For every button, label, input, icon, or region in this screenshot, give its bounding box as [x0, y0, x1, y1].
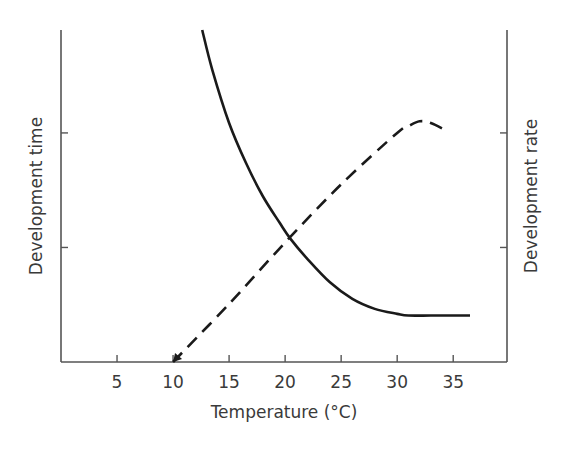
development-rate-curve	[173, 121, 448, 362]
development-time-curve	[202, 30, 470, 316]
x-tick-label: 10	[162, 372, 184, 392]
x-tick-labels: 5101520253035	[112, 372, 464, 392]
left-y-axis-title: Development time	[26, 117, 46, 275]
curves	[173, 30, 470, 362]
x-tick-label: 30	[386, 372, 408, 392]
x-tick-label: 35	[442, 372, 464, 392]
x-tick-label: 20	[274, 372, 296, 392]
axes-frame	[61, 30, 507, 362]
x-tick-label: 25	[330, 372, 352, 392]
temperature-development-chart: 5101520253035 Temperature (°C) Developme…	[0, 0, 563, 450]
x-tick-label: 5	[112, 372, 123, 392]
x-axis-title: Temperature (°C)	[210, 402, 358, 422]
x-tick-label: 15	[218, 372, 240, 392]
axis-ticks	[61, 133, 507, 362]
right-y-axis-title: Development rate	[521, 119, 541, 273]
